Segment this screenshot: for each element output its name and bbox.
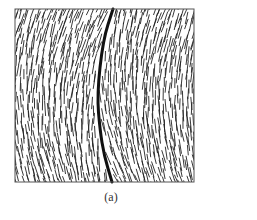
figure-panel: (a) — [0, 0, 257, 220]
director-segments — [8, 0, 201, 197]
panel-label: (a) — [96, 190, 126, 205]
director-field-diagram — [0, 0, 257, 220]
